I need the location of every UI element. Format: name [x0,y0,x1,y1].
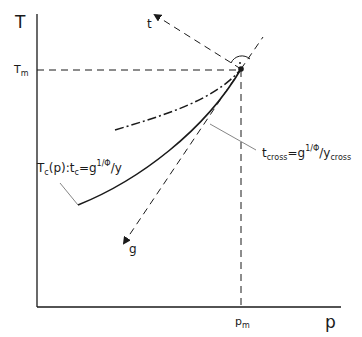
t-direction-extension [241,37,263,69]
tc-curve-label: Tc(p):tc=g1/Φ/y [37,160,122,177]
tcross-exp: 1/Φ [305,144,319,153]
tc-post: /y [111,161,122,175]
tcross-curve-label: tcross=g1/Φ/ycross [262,145,351,162]
tcross-eq: =g [287,146,305,160]
pm-sub: m [242,321,250,330]
tcross-mid: /y [319,146,330,160]
t-vector-label: t [147,18,152,30]
tcross-post-sub: cross [330,153,351,162]
tcross-label-leader [210,124,256,150]
tm-main: T [14,63,21,76]
t-vector-arrow [155,15,241,69]
g-vector-label: g [129,243,137,255]
right-angle-marker [231,56,250,63]
y-axis-label: T [15,14,25,31]
pm-tick-label: pm [235,316,250,330]
tcross-pre-sub: cross [267,153,288,162]
right-angle-dot [239,62,241,64]
tc-mid: (p):t [49,161,75,175]
tcross-curve [115,69,241,130]
tc-label-leader [60,183,78,205]
tc-exp: 1/Φ [97,159,111,168]
tm-tick-label: Tm [14,64,29,78]
x-axis-label: p [325,314,336,331]
pm-main: p [235,315,242,328]
tm-sub: m [21,69,29,78]
intersection-point [238,66,244,72]
tc-eq: =g [79,161,97,175]
